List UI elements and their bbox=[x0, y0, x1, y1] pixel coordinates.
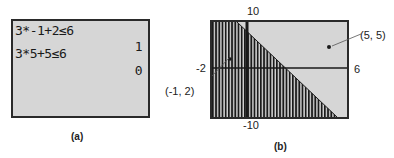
ymin-label: -10 bbox=[243, 119, 259, 131]
point-label-5-5: (5, 5) bbox=[360, 29, 386, 41]
ymax-label: 10 bbox=[247, 5, 259, 17]
xmin-label: -2 bbox=[196, 62, 206, 74]
caption-b: (b) bbox=[274, 141, 287, 152]
xmax-label: 6 bbox=[354, 63, 360, 75]
point-label-neg1-2: (-1, 2) bbox=[165, 85, 194, 97]
annotation-leaders bbox=[0, 0, 394, 158]
